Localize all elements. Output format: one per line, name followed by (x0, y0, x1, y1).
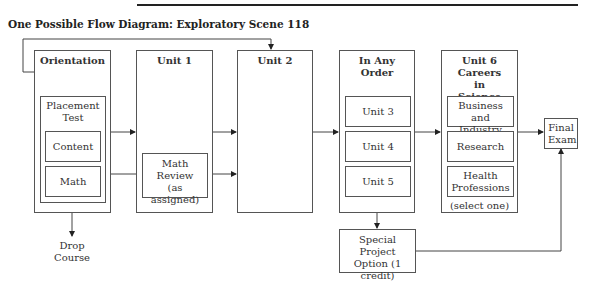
drop-course-label: Drop Course (52, 240, 92, 264)
select-one-note: (select one) (442, 200, 517, 212)
unit6-label: Unit 6 (442, 55, 517, 67)
unit5-label: Unit 5 (346, 176, 410, 188)
research-label: Research (448, 141, 513, 153)
health-professions-box: Health Professions (447, 166, 514, 197)
orientation-box: Orientation Placement Test Content Math (34, 50, 111, 213)
unit2-box: Unit 2 (237, 50, 313, 213)
health-professions-label: Health Professions (448, 170, 513, 194)
unit2-label: Unit 2 (238, 55, 312, 67)
unit3-box: Unit 3 (345, 96, 411, 127)
placement-test-label: Placement Test (41, 100, 105, 124)
math-review-label: Math Review (as assigned) (143, 158, 207, 206)
unit6-box: Unit 6 Careers in Science Business and I… (441, 50, 518, 213)
content-label: Content (46, 141, 100, 153)
math-review-box: Math Review (as assigned) (142, 153, 208, 198)
unit3-label: Unit 3 (346, 106, 410, 118)
math-label: Math (46, 176, 100, 188)
final-exam-box: Final Exam (544, 118, 578, 149)
unit4-label: Unit 4 (346, 141, 410, 153)
math-box: Math (45, 166, 101, 197)
research-box: Research (447, 131, 514, 162)
any-order-label: In Any Order (340, 55, 414, 79)
any-order-box: In Any Order Unit 3 Unit 4 Unit 5 (339, 50, 415, 213)
unit5-box: Unit 5 (345, 166, 411, 197)
content-box: Content (45, 131, 101, 162)
business-industry-box: Business and Industry (447, 96, 514, 127)
placement-test-box: Placement Test Content Math (40, 96, 106, 203)
final-exam-label: Final Exam (545, 122, 577, 146)
unit1-box: Unit 1 Math Review (as assigned) (136, 50, 213, 213)
unit4-box: Unit 4 (345, 131, 411, 162)
special-project-label: Special Project Option (1 credit) (340, 234, 415, 282)
special-project-box: Special Project Option (1 credit) (339, 229, 416, 273)
orientation-label: Orientation (35, 55, 110, 67)
unit1-label: Unit 1 (137, 55, 212, 67)
